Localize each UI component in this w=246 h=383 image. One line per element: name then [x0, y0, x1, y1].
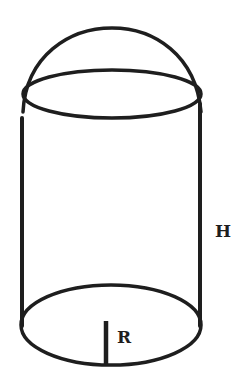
- height-label: H: [215, 223, 231, 240]
- radius-label: R: [117, 329, 131, 346]
- diagram-canvas: H R: [0, 0, 246, 383]
- top-ellipse: [23, 70, 201, 118]
- cylinder-figure: [0, 0, 246, 383]
- bottom-ellipse: [21, 285, 201, 365]
